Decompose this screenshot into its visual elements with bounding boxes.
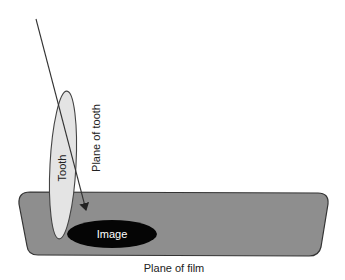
- plane-of-tooth-label: Plane of tooth: [90, 104, 102, 172]
- projection-diagram: Tooth Plane of tooth Image Plane of film: [0, 0, 345, 280]
- tooth-label: Tooth: [56, 155, 68, 182]
- image-label: Image: [97, 228, 128, 240]
- plane-of-film-label: Plane of film: [144, 262, 205, 274]
